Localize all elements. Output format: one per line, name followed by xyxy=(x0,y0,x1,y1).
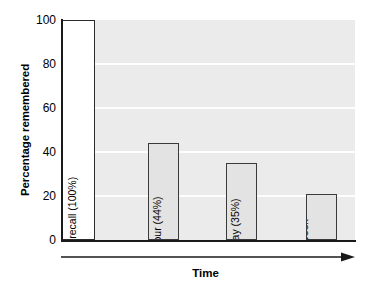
bar-one-hour: One hour (44%) xyxy=(148,143,179,240)
bar-one-day: One day (35%) xyxy=(226,163,257,240)
x-axis-line xyxy=(61,240,356,242)
bar-chart: Percentage remembered 100 80 60 40 20 0 … xyxy=(0,0,379,290)
gridline-60 xyxy=(62,107,355,109)
y-tick-60: 60 xyxy=(28,102,56,114)
y-tick-0: 0 xyxy=(28,234,56,246)
y-axis-tick-labels: 100 80 60 40 20 0 xyxy=(26,0,56,290)
y-axis-line xyxy=(61,19,63,241)
bar-label-one-day: One day (35%) xyxy=(230,199,242,240)
bar-label-one-week: One week (21%) xyxy=(306,202,322,240)
bar-one-week: One week (21%) xyxy=(306,194,337,240)
y-tick-40: 40 xyxy=(28,146,56,158)
plot-area: Immediate recall (100%) One hour (44%) O… xyxy=(62,20,355,240)
x-axis-title: Time xyxy=(0,267,379,279)
bar-immediate-recall: Immediate recall (100%) xyxy=(62,20,95,240)
bar-label-one-hour: One hour (44%) xyxy=(152,197,164,240)
gridline-80 xyxy=(62,63,355,65)
time-axis-arrow-icon xyxy=(60,252,356,264)
y-tick-80: 80 xyxy=(28,58,56,70)
y-tick-100: 100 xyxy=(28,14,56,26)
gridline-40 xyxy=(62,151,355,153)
y-tick-20: 20 xyxy=(28,190,56,202)
bar-label-immediate-recall: Immediate recall (100%) xyxy=(67,177,79,240)
